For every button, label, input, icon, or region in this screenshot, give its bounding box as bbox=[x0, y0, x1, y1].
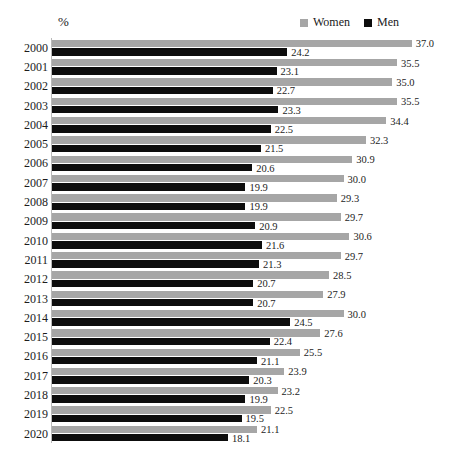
bar-men[interactable] bbox=[52, 338, 270, 345]
bar-row: 201922.519.5 bbox=[0, 405, 451, 424]
bar-women[interactable] bbox=[52, 426, 257, 433]
bar-women[interactable] bbox=[52, 117, 386, 124]
bar-group: 34.422.5 bbox=[52, 115, 451, 134]
bar-value-label: 23.3 bbox=[278, 104, 300, 115]
bar-women[interactable] bbox=[52, 59, 397, 66]
bar-track-men: 19.5 bbox=[52, 415, 451, 422]
bar-track-women: 32.3 bbox=[52, 136, 451, 143]
bar-women[interactable] bbox=[52, 40, 412, 47]
year-label: 2003 bbox=[14, 99, 48, 112]
bar-men[interactable] bbox=[52, 67, 277, 74]
bar-row: 200730.019.9 bbox=[0, 173, 451, 192]
bar-men[interactable] bbox=[52, 106, 278, 113]
bar-track-women: 30.6 bbox=[52, 233, 451, 240]
bar-women[interactable] bbox=[52, 98, 397, 105]
bar-men[interactable] bbox=[52, 299, 253, 306]
bar-women[interactable] bbox=[52, 78, 392, 85]
bar-value-label: 21.1 bbox=[257, 355, 279, 366]
bar-track-men: 24.5 bbox=[52, 318, 451, 325]
bar-value-label: 21.3 bbox=[259, 259, 281, 270]
bar-value-label: 21.6 bbox=[262, 239, 284, 250]
bar-group: 22.519.5 bbox=[52, 405, 451, 424]
bar-men[interactable] bbox=[52, 260, 259, 267]
legend-label-women: Women bbox=[313, 16, 350, 29]
bar-track-men: 19.9 bbox=[52, 183, 451, 190]
bar-group: 29.720.9 bbox=[52, 212, 451, 231]
bar-value-label: 22.4 bbox=[270, 336, 292, 347]
bar-men[interactable] bbox=[52, 125, 271, 132]
bar-track-women: 35.5 bbox=[52, 98, 451, 105]
bar-value-label: 20.7 bbox=[253, 297, 275, 308]
bar-women[interactable] bbox=[52, 156, 352, 163]
bar-men[interactable] bbox=[52, 357, 257, 364]
bar-men[interactable] bbox=[52, 87, 273, 94]
year-label: 2019 bbox=[14, 408, 48, 421]
bar-track-men: 19.9 bbox=[52, 395, 451, 402]
bar-track-women: 34.4 bbox=[52, 117, 451, 124]
bar-value-label: 19.9 bbox=[245, 181, 267, 192]
legend-item-men[interactable]: Men bbox=[364, 16, 399, 29]
year-label: 2009 bbox=[14, 215, 48, 228]
bar-group: 37.024.2 bbox=[52, 38, 451, 57]
bar-women[interactable] bbox=[52, 175, 344, 182]
bar-row: 202021.118.1 bbox=[0, 424, 451, 443]
bar-value-label: 20.6 bbox=[252, 162, 274, 173]
bar-men[interactable] bbox=[52, 415, 242, 422]
bar-men[interactable] bbox=[52, 183, 245, 190]
bar-value-label: 19.9 bbox=[245, 201, 267, 212]
bar-value-label: 20.3 bbox=[249, 374, 271, 385]
bar-women[interactable] bbox=[52, 252, 341, 259]
bar-group: 27.622.4 bbox=[52, 327, 451, 346]
year-label: 2012 bbox=[14, 273, 48, 286]
year-label: 2014 bbox=[14, 311, 48, 324]
bar-rows: 200037.024.2200135.523.1200235.022.72003… bbox=[0, 38, 451, 443]
bar-group: 29.721.3 bbox=[52, 250, 451, 269]
bar-men[interactable] bbox=[52, 318, 290, 325]
bar-men[interactable] bbox=[52, 241, 262, 248]
bar-women[interactable] bbox=[52, 406, 271, 413]
square-swatch-icon bbox=[364, 19, 372, 27]
bar-men[interactable] bbox=[52, 164, 252, 171]
bar-men[interactable] bbox=[52, 434, 228, 441]
bar-men[interactable] bbox=[52, 395, 245, 402]
bar-track-women: 28.5 bbox=[52, 271, 451, 278]
bar-men[interactable] bbox=[52, 222, 255, 229]
bar-men[interactable] bbox=[52, 203, 245, 210]
bar-group: 28.520.7 bbox=[52, 270, 451, 289]
bar-women[interactable] bbox=[52, 233, 349, 240]
bar-value-label: 24.5 bbox=[290, 316, 312, 327]
bar-track-women: 35.0 bbox=[52, 78, 451, 85]
bar-women[interactable] bbox=[52, 136, 366, 143]
bar-track-men: 21.6 bbox=[52, 241, 451, 248]
bar-men[interactable] bbox=[52, 376, 249, 383]
year-label: 2010 bbox=[14, 234, 48, 247]
bar-track-men: 20.9 bbox=[52, 222, 451, 229]
year-label: 2016 bbox=[14, 350, 48, 363]
bar-track-women: 37.0 bbox=[52, 40, 451, 47]
bar-women[interactable] bbox=[52, 387, 278, 394]
bar-women[interactable] bbox=[52, 291, 323, 298]
bar-track-men: 22.4 bbox=[52, 338, 451, 345]
bar-women[interactable] bbox=[52, 213, 341, 220]
year-label: 2018 bbox=[14, 388, 48, 401]
legend-item-women[interactable]: Women bbox=[300, 16, 350, 29]
bar-row: 200037.024.2 bbox=[0, 38, 451, 57]
bar-track-men: 23.3 bbox=[52, 106, 451, 113]
bar-women[interactable] bbox=[52, 194, 337, 201]
grouped-bar-chart: % Women Men 200037.024.2200135.523.12002… bbox=[0, 0, 451, 467]
bar-group: 30.024.5 bbox=[52, 308, 451, 327]
bar-men[interactable] bbox=[52, 48, 287, 55]
year-label: 2015 bbox=[14, 331, 48, 344]
bar-value-label: 19.5 bbox=[242, 413, 264, 424]
year-label: 2002 bbox=[14, 80, 48, 93]
bar-men[interactable] bbox=[52, 280, 253, 287]
bar-track-women: 27.6 bbox=[52, 329, 451, 336]
bar-track-men: 18.1 bbox=[52, 434, 451, 441]
bar-value-label: 21.5 bbox=[261, 143, 283, 154]
bar-men[interactable] bbox=[52, 145, 261, 152]
bar-row: 200235.022.7 bbox=[0, 77, 451, 96]
bar-track-men: 20.7 bbox=[52, 299, 451, 306]
bar-track-men: 19.9 bbox=[52, 203, 451, 210]
bar-row: 201228.520.7 bbox=[0, 270, 451, 289]
bar-women[interactable] bbox=[52, 271, 329, 278]
